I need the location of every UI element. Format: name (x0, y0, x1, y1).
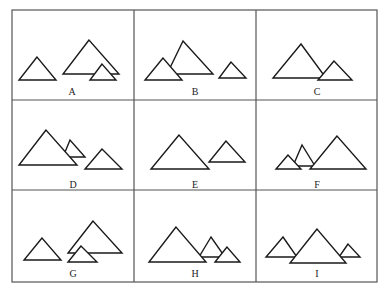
option-cells: ABCDEFGHI (19, 40, 366, 279)
option-cell-d[interactable]: D (19, 130, 122, 190)
triangle-large-icon (68, 221, 122, 253)
triangle-large-icon (273, 44, 326, 78)
option-label: G (69, 268, 76, 279)
option-cell-a[interactable]: A (19, 40, 119, 97)
option-label: F (314, 179, 320, 190)
triangle-options-figure: ABCDEFGHI (0, 0, 391, 292)
triangle-small-right-icon (85, 149, 122, 169)
option-label: B (192, 86, 199, 97)
triangle-large-icon (63, 40, 119, 74)
triangle-small-middle-icon (293, 145, 315, 166)
option-cell-g[interactable]: G (24, 221, 122, 279)
triangle-large-icon (310, 136, 366, 169)
triangle-small-right-icon (339, 244, 360, 257)
option-cell-f[interactable]: F (276, 136, 366, 190)
triangle-small-right-icon (209, 141, 245, 162)
option-cell-i[interactable]: I (266, 229, 360, 279)
triangle-small-left-icon (19, 57, 56, 80)
option-cell-c[interactable]: C (273, 44, 352, 97)
option-label: I (315, 268, 318, 279)
option-label: E (192, 179, 198, 190)
triangle-small-left-icon (24, 238, 61, 260)
triangle-small-right-icon (219, 62, 246, 78)
triangle-large-icon (149, 227, 206, 262)
option-cell-e[interactable]: E (151, 135, 245, 190)
triangle-large-icon (290, 229, 346, 263)
option-label: C (314, 86, 321, 97)
triangle-large-icon (151, 135, 209, 169)
triangle-small-left-icon (266, 237, 297, 257)
option-label: D (69, 179, 76, 190)
triangle-small-right-icon (318, 61, 352, 80)
triangle-large-icon (167, 41, 213, 74)
option-label: A (68, 86, 76, 97)
option-label: H (191, 268, 198, 279)
option-cell-h[interactable]: H (149, 227, 240, 279)
option-cell-b[interactable]: B (145, 41, 246, 97)
